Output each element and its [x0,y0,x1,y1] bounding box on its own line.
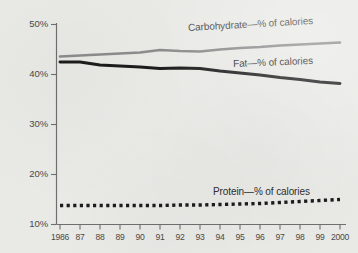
y-axis-ticks [51,25,57,225]
y-tick-label-40: 40% [14,68,48,79]
line-chart-canvas [0,0,358,253]
chart-figure: 50% 40% 30% 20% 10% 19868788899091929394… [0,0,358,253]
y-tick-label-10: 10% [14,218,48,229]
y-tick-label-50: 50% [14,18,48,29]
x-tick-label-2000: 2000 [324,232,356,242]
series-protein [60,200,340,206]
y-tick-label-20: 20% [14,168,48,179]
x-axis-ticks [60,225,340,230]
y-tick-label-30: 30% [14,118,48,129]
series-carbohydrate [60,43,340,57]
series-label-protein: Protein—% of calories [213,186,310,197]
